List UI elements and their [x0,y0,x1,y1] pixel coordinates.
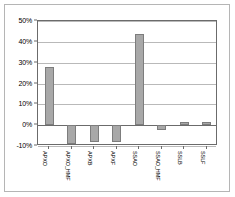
x-tick-label: SSAO [132,151,138,166]
x-tick-label: SSAO_HMF [155,151,161,180]
x-tick-label: APXB [87,151,93,165]
x-tick-label: APXO_HMF [65,151,71,180]
x-tick-label: SSLB [177,151,183,165]
x-tick-mark [93,146,94,149]
plot-area [37,20,217,145]
x-tick-mark [138,146,139,149]
bar [45,67,54,125]
bar [135,34,144,126]
x-tick-mark [116,146,117,149]
y-tick-label: 30% [19,58,32,65]
x-tick-mark [206,146,207,149]
x-tick-label: APXO [42,151,48,166]
chart-frame: 50%40%30%20%10%0%-10% APXOAPXO_HMFAPXBAP… [4,4,230,192]
y-tick-label: -10% [16,142,32,149]
bar [202,122,211,125]
y-tick-label: 0% [22,121,32,128]
bar [112,125,121,142]
bar [90,125,99,142]
y-tick-label: 50% [19,17,32,24]
y-tick-label: 20% [19,79,32,86]
y-tick-label: 40% [19,37,32,44]
y-tick-label: 10% [19,100,32,107]
bar [67,125,76,144]
bar-series [38,21,216,144]
bar [180,122,189,125]
y-axis: 50%40%30%20%10%0%-10% [9,20,37,145]
x-axis: APXOAPXO_HMFAPXBAPXFSSAOSSAO_HMFSSLBSSLF [37,146,217,197]
x-tick-mark [183,146,184,149]
bar [157,125,166,130]
x-tick-label: APXF [110,151,116,165]
x-tick-mark [161,146,162,149]
x-tick-label: SSLF [200,151,206,164]
x-tick-mark [48,146,49,149]
x-tick-mark [71,146,72,149]
